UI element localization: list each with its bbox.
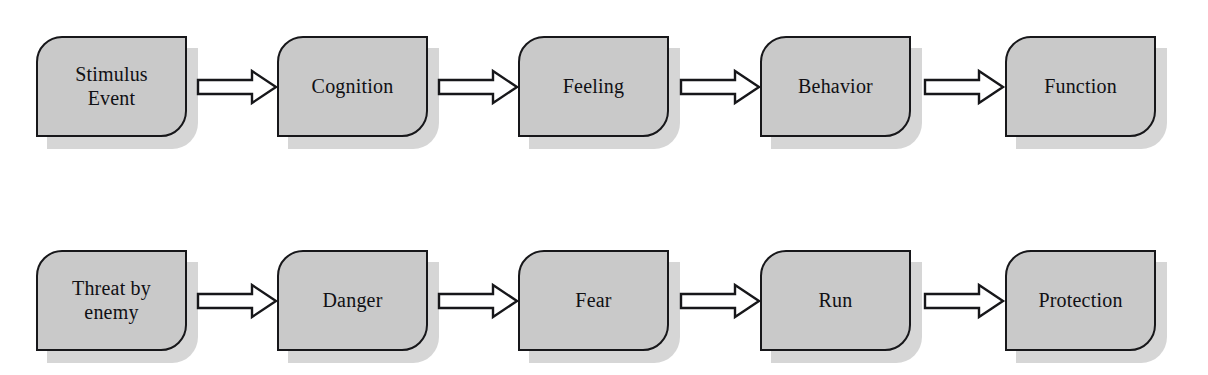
- node-box[interactable]: Danger: [277, 250, 428, 351]
- node-feeling[interactable]: Feeling: [518, 36, 669, 137]
- arrow-stimulus-to-cognition: [196, 69, 276, 105]
- node-box[interactable]: Cognition: [277, 36, 428, 137]
- node-box[interactable]: Fear: [518, 250, 669, 351]
- arrow-glyph-icon: [198, 285, 276, 317]
- node-box[interactable]: Behavior: [760, 36, 911, 137]
- node-box[interactable]: Feeling: [518, 36, 669, 137]
- node-label: Feeling: [557, 75, 630, 98]
- arrow-danger-to-fear: [437, 283, 517, 319]
- node-threat-by-enemy[interactable]: Threat by enemy: [36, 250, 187, 351]
- arrow-glyph-icon: [925, 71, 1003, 103]
- arrow-threat-to-danger: [196, 283, 276, 319]
- node-label: Protection: [1032, 289, 1128, 312]
- arrow-fear-to-run: [679, 283, 759, 319]
- node-box[interactable]: Stimulus Event: [36, 36, 187, 137]
- node-label: Stimulus Event: [69, 63, 154, 110]
- node-danger[interactable]: Danger: [277, 250, 428, 351]
- arrow-glyph-icon: [439, 71, 517, 103]
- flowchart-canvas: Stimulus Event Cognition Feeling: [0, 0, 1208, 375]
- arrow-glyph-icon: [439, 285, 517, 317]
- flow-row-example-instance: Threat by enemy Danger Fear: [0, 232, 1208, 372]
- node-label: Fear: [569, 289, 617, 312]
- node-box[interactable]: Protection: [1005, 250, 1156, 351]
- node-label: Behavior: [792, 75, 879, 98]
- arrow-glyph-icon: [681, 285, 759, 317]
- node-cognition[interactable]: Cognition: [277, 36, 428, 137]
- node-fear[interactable]: Fear: [518, 250, 669, 351]
- node-label: Cognition: [306, 75, 400, 98]
- node-run[interactable]: Run: [760, 250, 911, 351]
- node-box[interactable]: Run: [760, 250, 911, 351]
- node-label: Function: [1038, 75, 1123, 98]
- arrow-run-to-protection: [923, 283, 1003, 319]
- node-label: Run: [813, 289, 859, 312]
- node-box[interactable]: Threat by enemy: [36, 250, 187, 351]
- arrow-glyph-icon: [681, 71, 759, 103]
- arrow-glyph-icon: [198, 71, 276, 103]
- node-stimulus-event[interactable]: Stimulus Event: [36, 36, 187, 137]
- arrow-glyph-icon: [925, 285, 1003, 317]
- arrow-feeling-to-behavior: [679, 69, 759, 105]
- node-behavior[interactable]: Behavior: [760, 36, 911, 137]
- node-label: Threat by enemy: [66, 277, 157, 324]
- flow-row-general-model: Stimulus Event Cognition Feeling: [0, 18, 1208, 158]
- node-box[interactable]: Function: [1005, 36, 1156, 137]
- arrow-behavior-to-function: [923, 69, 1003, 105]
- node-function[interactable]: Function: [1005, 36, 1156, 137]
- node-protection[interactable]: Protection: [1005, 250, 1156, 351]
- node-label: Danger: [316, 289, 388, 312]
- arrow-cognition-to-feeling: [437, 69, 517, 105]
